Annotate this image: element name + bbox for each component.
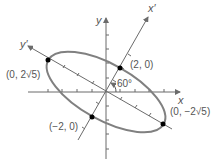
point-2-0	[118, 66, 123, 71]
point-label-neg2-0: (−2, 0)	[49, 121, 78, 132]
y-axis-label: y	[95, 14, 103, 26]
point-label-bottom-right: (0, −2√5)	[170, 106, 210, 117]
point-top-left	[46, 58, 51, 63]
angle-arc	[111, 83, 116, 92]
point-label-top-left: (0, 2√5)	[6, 69, 40, 80]
rotated-ellipse-diagram: y x x′ y′ 60° (0, 2√5) (2, 0) (−2, 0) (0…	[0, 0, 214, 159]
point-neg2-0	[90, 115, 95, 120]
point-bottom-right	[161, 122, 166, 127]
point-label-2-0: (2, 0)	[130, 59, 153, 70]
y-prime-axis-label: y′	[19, 38, 29, 50]
x-axis-label: x	[177, 94, 184, 106]
x-prime-axis-label: x′	[147, 2, 157, 14]
angle-label: 60°	[117, 78, 132, 89]
